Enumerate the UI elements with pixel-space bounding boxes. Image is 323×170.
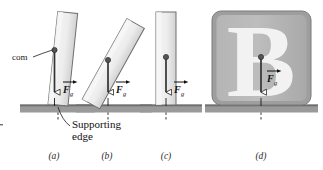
panel-caption-b: (b): [101, 151, 112, 162]
com-dot-b: [105, 57, 110, 62]
panel-c: F g (c): [140, 12, 202, 162]
panel-d: B F g (d): [205, 4, 318, 162]
panel-caption-c: (c): [161, 151, 172, 162]
left-edge-marker: [0, 124, 3, 125]
com-label: com: [12, 52, 28, 62]
com-callout-a: com: [12, 50, 53, 62]
force-subscript-c: g: [181, 90, 185, 97]
force-symbol-d: F: [266, 73, 274, 84]
com-dot-d: [258, 54, 263, 59]
force-label-a: F g: [62, 82, 75, 97]
force-symbol-a: F: [62, 84, 70, 95]
panel-caption-a: (a): [48, 151, 59, 162]
force-symbol-b: F: [115, 84, 123, 95]
supporting-edge-line2: edge: [72, 130, 93, 142]
force-symbol-c: F: [173, 84, 181, 95]
panel-caption-d: (d): [255, 151, 266, 162]
force-label-c: F g: [173, 82, 186, 97]
physics-figure-stability: F g com (a) F g (b): [0, 0, 323, 170]
figure-canvas: F g com (a) F g (b): [0, 0, 323, 170]
com-dot-a: [52, 47, 57, 52]
force-subscript-a: g: [70, 90, 74, 97]
block-b: [82, 19, 144, 109]
ground-c: [140, 105, 202, 113]
force-subscript-b: g: [123, 90, 127, 97]
supporting-edge-line1: Supporting: [72, 118, 121, 130]
com-dot-c: [163, 54, 168, 59]
force-label-b: F g: [115, 82, 128, 97]
